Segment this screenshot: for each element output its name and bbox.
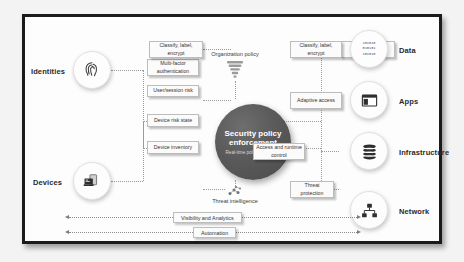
- pillar-label-network: Network: [399, 207, 429, 216]
- arrow-left-automation: [65, 230, 69, 234]
- control-box-threat-protection[interactable]: Threat protection: [290, 181, 334, 198]
- connector-adaptive-to-apps: [203, 100, 231, 101]
- connector-threat-to-network: [203, 189, 225, 190]
- arrow-left-visibility: [65, 215, 69, 219]
- connector-devices-riser: [143, 121, 144, 181]
- control-box-classify-label-encrypt-main[interactable]: Classify, label, encrypt: [290, 41, 342, 58]
- pillar-icon-network[interactable]: [350, 191, 388, 229]
- pillar-label-infrastructure: Infrastructure: [399, 148, 449, 157]
- connector-to-runtime: [321, 151, 339, 152]
- control-box-user-session-risk[interactable]: User/session risk: [147, 85, 199, 97]
- binary-row-3: 101010: [363, 52, 376, 57]
- pillar-label-apps: Apps: [399, 97, 418, 106]
- connector-devices-to-inventory: [111, 181, 143, 182]
- control-box-access-and-runtime-control[interactable]: Access and runtime control: [253, 143, 305, 160]
- control-box-multi-factor-authentication[interactable]: Multi-factor authentication: [147, 59, 199, 76]
- pillar-label-identities: Identities: [31, 67, 65, 76]
- control-box-adaptive-access[interactable]: Adaptive access: [290, 92, 342, 109]
- pillar-label-data: Data: [399, 46, 416, 55]
- annotation-threat-intelligence: Threat intelligence: [193, 198, 277, 204]
- security-policy-enforcement-hub[interactable]: Security policy enforcement Real-time po…: [215, 104, 291, 180]
- pillar-icon-identities[interactable]: [73, 51, 111, 89]
- app-window-icon: [360, 91, 379, 110]
- bar-label-visibility-and-analytics[interactable]: Visibility and Analytics: [173, 212, 242, 223]
- binary-data-icon: 101010 010101 101010: [363, 41, 376, 57]
- database-icon: [360, 142, 379, 161]
- pillar-icon-apps[interactable]: [350, 81, 388, 119]
- arrow-right-automation: [357, 230, 361, 234]
- connector-right-riser: [321, 49, 322, 189]
- binary-row-2: 010101: [363, 46, 376, 51]
- pillar-icon-data[interactable]: 101010 010101 101010: [350, 30, 388, 68]
- arrow-right-visibility: [357, 215, 361, 219]
- pillar-icon-devices[interactable]: [73, 162, 111, 200]
- control-box-device-inventory[interactable]: Device inventory: [147, 141, 199, 154]
- pillar-icon-infrastructure[interactable]: [350, 132, 388, 170]
- bar-label-automation[interactable]: Automation: [193, 227, 236, 238]
- diagram-frame: Identities Multi-factor authentication U…: [22, 14, 442, 244]
- diagram-canvas: Identities Multi-factor authentication U…: [0, 0, 464, 262]
- device-icon: [82, 171, 102, 191]
- threat-intelligence-icon: [227, 185, 243, 197]
- network-topology-icon: [360, 201, 379, 220]
- connector-identities-to-mfa: [111, 70, 143, 71]
- control-box-classify-label-encrypt[interactable]: Classify, label, encrypt: [149, 41, 203, 58]
- control-box-device-risk-state[interactable]: Device risk state: [147, 114, 199, 127]
- fingerprint-icon: [82, 60, 102, 80]
- connector-classify-to-data: [203, 49, 231, 50]
- pillar-label-devices: Devices: [33, 178, 62, 187]
- connector-policy-to-hub: [235, 81, 236, 99]
- funnel-icon: [225, 61, 245, 83]
